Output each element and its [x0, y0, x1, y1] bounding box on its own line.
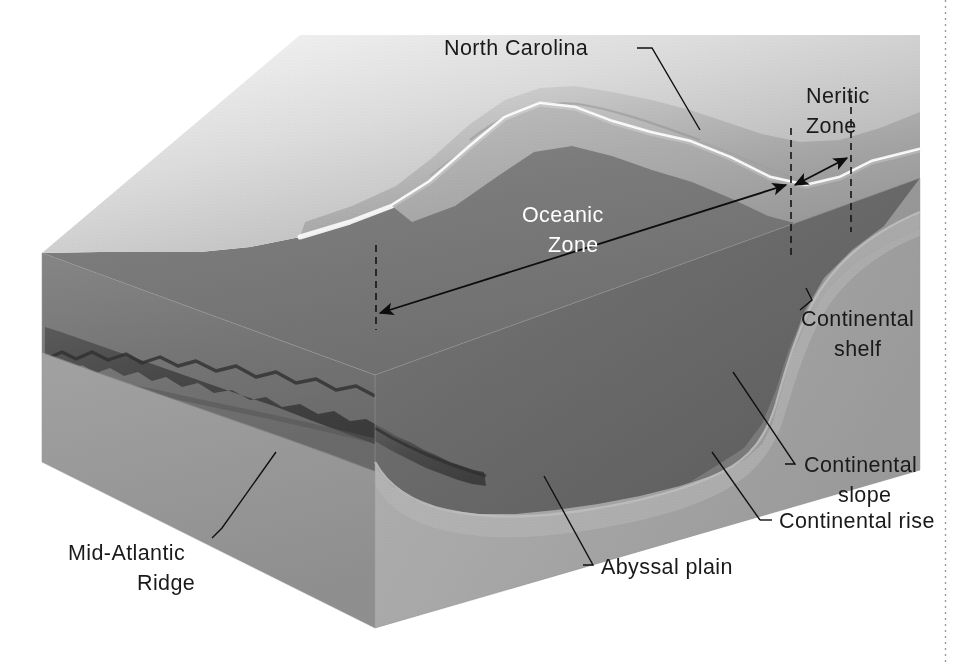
- label-oceanic-zone-line1: Oceanic: [522, 203, 604, 227]
- label-mid-atlantic-ridge-line1: Mid-Atlantic: [68, 541, 185, 565]
- block-diagram-body: [42, 35, 920, 628]
- label-continental-shelf-line2: shelf: [834, 337, 881, 361]
- continental-margin-diagram: North Carolina Neritic Zone Oceanic Zone…: [0, 0, 956, 663]
- label-oceanic-zone-line2: Zone: [548, 233, 599, 257]
- label-abyssal-plain: Abyssal plain: [601, 555, 733, 579]
- label-neritic-zone-line1: Neritic: [806, 84, 870, 108]
- block-texture-overlay: [42, 35, 920, 628]
- label-mid-atlantic-ridge-line2: Ridge: [137, 571, 195, 595]
- label-continental-rise: Continental rise: [779, 509, 935, 533]
- label-north-carolina: North Carolina: [444, 36, 588, 60]
- label-neritic-zone-line2: Zone: [806, 114, 857, 138]
- label-continental-shelf-line1: Continental: [801, 307, 914, 331]
- label-continental-slope-line2: slope: [838, 483, 891, 507]
- label-continental-slope-line1: Continental: [804, 453, 917, 477]
- figure-root: North Carolina Neritic Zone Oceanic Zone…: [0, 0, 956, 663]
